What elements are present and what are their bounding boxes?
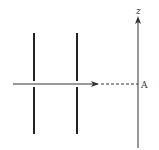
diagram-canvas: z A	[0, 0, 159, 150]
z-axis-label: z	[135, 6, 141, 16]
point-a-label: A	[140, 80, 148, 90]
